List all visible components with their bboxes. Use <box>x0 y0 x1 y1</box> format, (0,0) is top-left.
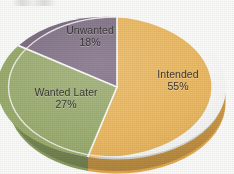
slice-label-unwanted-name: Unwanted <box>52 24 128 36</box>
slice-label-intended-name: Intended <box>138 68 218 80</box>
slice-label-intended-percent: 55% <box>138 80 218 92</box>
slice-label-unwanted: Unwanted 18% <box>52 24 128 49</box>
slice-label-wanted-later-name: Wanted Later <box>20 86 112 98</box>
slice-label-intended: Intended 55% <box>138 68 218 93</box>
pie-chart-figure: Intended 55% Wanted Later 27% Unwanted 1… <box>0 0 234 174</box>
slice-label-wanted-later-percent: 27% <box>20 98 112 110</box>
slice-label-wanted-later: Wanted Later 27% <box>20 86 112 111</box>
slice-label-unwanted-percent: 18% <box>52 36 128 48</box>
